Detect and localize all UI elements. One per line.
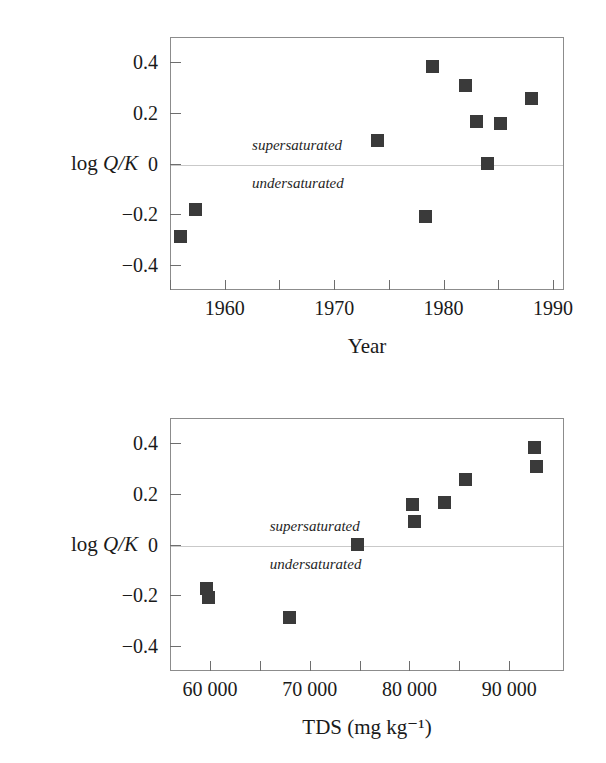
y-tick-label-top: 0.2: [38, 103, 158, 123]
plot-area-year: [170, 37, 564, 290]
y-tick-label-bottom: 0: [38, 535, 158, 555]
x-axis-title-top: Year: [170, 336, 564, 357]
chart-panel-year: log Q/K −0.4−0.200.20.4 1960197019801990…: [0, 0, 606, 382]
data-point: [202, 591, 215, 604]
x-tick-top: [444, 280, 445, 290]
x-tick-bottom: [310, 661, 311, 671]
x-tick-bottom: [210, 661, 211, 671]
y-tick-label-top: −0.2: [38, 204, 158, 224]
data-point: [470, 115, 483, 128]
y-tick-bottom: [170, 443, 181, 444]
data-point: [283, 611, 296, 624]
y-tick-label-top: −0.4: [38, 255, 158, 275]
x-tick-bottom: [409, 661, 410, 671]
annotation-supersaturated-bottom: supersaturated: [270, 519, 360, 534]
x-tick-bottom: [260, 661, 261, 671]
data-point: [459, 79, 472, 92]
annotation-supersaturated-top: supersaturated: [252, 138, 342, 153]
y-tick-label-bottom: −0.4: [38, 636, 158, 656]
plot-area-tds: [170, 418, 564, 671]
x-tick-top: [498, 280, 499, 290]
data-point: [459, 473, 472, 486]
y-tick-bottom: [170, 494, 181, 495]
y-tick-bottom: [170, 545, 181, 546]
y-tick-label-top: 0: [38, 154, 158, 174]
x-tick-top: [553, 280, 554, 290]
data-point: [406, 498, 419, 511]
y-tick-bottom: [170, 646, 181, 647]
annotation-undersaturated-bottom: undersaturated: [270, 557, 362, 572]
data-point: [528, 441, 541, 454]
data-point: [351, 538, 364, 551]
data-point: [189, 203, 202, 216]
data-point: [174, 230, 187, 243]
x-tick-label-top: 1970: [274, 298, 394, 318]
annotation-undersaturated-top: undersaturated: [252, 176, 344, 191]
x-tick-bottom: [360, 661, 361, 671]
zero-reference-line-bottom: [171, 546, 563, 547]
x-tick-label-top: 1990: [493, 298, 606, 318]
data-point: [371, 134, 384, 147]
x-tick-label-top: 1960: [165, 298, 285, 318]
y-tick-top: [170, 62, 181, 63]
data-point: [426, 60, 439, 73]
y-tick-top: [170, 113, 181, 114]
data-point: [494, 117, 507, 130]
zero-reference-line-top: [171, 165, 563, 166]
chart-panel-tds: log Q/K −0.4−0.200.20.4 60 00070 00080 0…: [0, 381, 606, 763]
x-tick-top: [389, 280, 390, 290]
data-point: [419, 210, 432, 223]
data-point: [481, 157, 494, 170]
x-axis-title-bottom: TDS (mg kg⁻¹): [170, 717, 564, 738]
x-tick-top: [334, 280, 335, 290]
data-point: [525, 92, 538, 105]
y-tick-label-bottom: −0.2: [38, 585, 158, 605]
x-tick-bottom: [459, 661, 460, 671]
data-point: [530, 460, 543, 473]
y-tick-bottom: [170, 595, 181, 596]
y-tick-label-top: 0.4: [38, 52, 158, 72]
y-tick-top: [170, 164, 181, 165]
data-point: [438, 496, 451, 509]
x-tick-top: [279, 280, 280, 290]
x-tick-label-bottom: 90 000: [449, 679, 569, 699]
y-tick-top: [170, 214, 181, 215]
x-tick-top: [170, 280, 171, 290]
y-tick-label-bottom: 0.2: [38, 484, 158, 504]
x-tick-bottom: [509, 661, 510, 671]
x-tick-top: [225, 280, 226, 290]
data-point: [408, 515, 421, 528]
x-tick-label-top: 1980: [384, 298, 504, 318]
y-tick-label-bottom: 0.4: [38, 433, 158, 453]
y-tick-top: [170, 265, 181, 266]
